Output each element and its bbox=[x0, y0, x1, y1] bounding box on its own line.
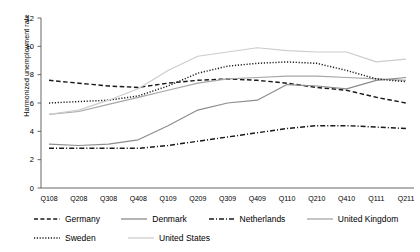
legend-label-denmark: Denmark bbox=[152, 214, 186, 224]
x-tick-label: Q309 bbox=[219, 195, 236, 203]
legend-item-denmark[interactable]: Denmark bbox=[121, 214, 198, 224]
series-line-germany bbox=[49, 79, 406, 103]
y-tick-label: 2 bbox=[30, 155, 34, 164]
sweden-line-swatch bbox=[34, 233, 60, 243]
x-tick-label: Q110 bbox=[279, 195, 296, 203]
united-kingdom-line-swatch bbox=[307, 214, 333, 224]
legend-item-united-states[interactable]: United States bbox=[128, 233, 212, 243]
legend-item-germany[interactable]: Germany bbox=[34, 214, 111, 224]
x-tick-label: Q409 bbox=[249, 195, 266, 203]
legend-row-2: Sweden United States bbox=[34, 228, 418, 247]
x-tick-label: Q208 bbox=[70, 195, 87, 203]
legend-label-germany: Germany bbox=[65, 214, 100, 224]
legend-item-sweden[interactable]: Sweden bbox=[34, 233, 118, 243]
data-series-group bbox=[49, 48, 406, 149]
legend-item-netherlands[interactable]: Netherlands bbox=[209, 214, 297, 224]
netherlands-line-swatch bbox=[209, 214, 235, 224]
x-tick-label: Q210 bbox=[308, 195, 325, 203]
chart-figure: Harmonized unemployment rate 024681012 Q… bbox=[0, 0, 420, 252]
series-line-sweden bbox=[49, 62, 406, 103]
y-tick-label: 6 bbox=[30, 99, 34, 108]
x-tick-label: Q308 bbox=[100, 195, 117, 203]
series-line-denmark bbox=[49, 78, 406, 146]
series-line-united-states bbox=[49, 48, 406, 115]
legend-label-sweden: Sweden bbox=[65, 233, 96, 243]
y-tick-label: 0 bbox=[30, 184, 34, 193]
legend-label-netherlands: Netherlands bbox=[240, 214, 286, 224]
x-tick-label: Q111 bbox=[368, 195, 384, 203]
series-line-united-kingdom bbox=[49, 76, 406, 114]
legend-label-united-kingdom: United Kingdom bbox=[338, 214, 398, 224]
denmark-line-swatch bbox=[121, 214, 147, 224]
x-axis-ticks: Q108Q208Q308Q408Q109Q209Q309Q409Q110Q210… bbox=[40, 195, 414, 203]
legend-item-united-kingdom[interactable]: United Kingdom bbox=[307, 214, 408, 224]
x-tick-label: Q410 bbox=[338, 195, 355, 203]
x-tick-label: Q408 bbox=[130, 195, 147, 203]
germany-line-swatch bbox=[34, 214, 60, 224]
legend-row-1: Germany Denmark Netherlands United Kingd… bbox=[34, 209, 418, 228]
united-states-line-swatch bbox=[128, 233, 154, 243]
x-tick-label: Q109 bbox=[159, 195, 176, 203]
y-axis-ticks: 024681012 bbox=[26, 14, 41, 193]
y-tick-label: 4 bbox=[30, 127, 34, 136]
x-tick-label: Q209 bbox=[189, 195, 206, 203]
x-tick-label: Q211 bbox=[398, 195, 415, 203]
chart-legend: Germany Denmark Netherlands United Kingd… bbox=[34, 209, 418, 251]
y-tick-label: 12 bbox=[26, 14, 34, 23]
y-tick-label: 10 bbox=[26, 42, 34, 51]
x-tick-label: Q108 bbox=[40, 195, 57, 203]
legend-label-united-states: United States bbox=[159, 233, 210, 243]
y-tick-label: 8 bbox=[30, 70, 34, 79]
